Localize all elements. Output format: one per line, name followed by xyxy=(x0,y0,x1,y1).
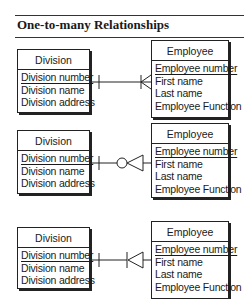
connector-3 xyxy=(90,252,151,268)
connector-1 xyxy=(90,75,151,89)
optional-circle-icon xyxy=(117,158,127,168)
crows-foot-icon xyxy=(128,252,143,268)
crows-foot-icon xyxy=(127,155,143,171)
connector-2 xyxy=(90,155,151,171)
